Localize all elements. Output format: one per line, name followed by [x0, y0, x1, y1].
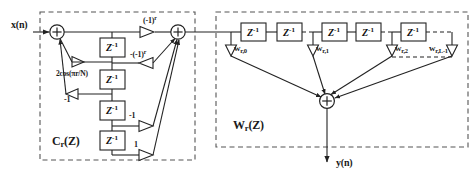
signal-flow-diagram: [0, 0, 476, 180]
coefficient-label-2cos: 2cos(πr/N): [56, 70, 88, 78]
weight-label-1: wr,1: [316, 44, 329, 54]
delay-label-right-1: Z-1: [247, 27, 259, 38]
output-label: y(n): [336, 158, 352, 168]
delay-symbol-exp: -1: [289, 26, 295, 34]
figure-canvas: x(n) y(n) Z-1 Z-1 Z-1 Z-1 Z-1 Z-1 Z-1 Z-…: [0, 0, 476, 180]
delay-label-left-1: Z-1: [106, 42, 118, 53]
delay-symbol-exp: -1: [112, 73, 118, 81]
adder-input-node: [50, 25, 64, 39]
delay-symbol-exp: -1: [368, 26, 374, 34]
delay-symbol-exp: -1: [253, 26, 259, 34]
right-block-label: Wr(Z): [233, 119, 264, 133]
coefficient-label-neg1-lower: -1: [129, 112, 135, 120]
delay-label-left-4: Z-1: [106, 135, 118, 146]
delay-symbol-exp: -1: [334, 26, 340, 34]
coefficient-label-top: (-1)r: [143, 16, 157, 25]
delay-symbol-exp: -1: [112, 104, 118, 112]
coefficient-label-neg1-upper: -1: [64, 96, 70, 104]
delay-symbol-exp: -1: [112, 41, 118, 49]
weight-triangle-L: [447, 45, 458, 56]
weight-label-0: wr,0: [234, 44, 247, 54]
weight-label-L: wr,L-1: [429, 44, 448, 54]
delay-label-right-3: Z-1: [328, 27, 340, 38]
delay-label-left-2: Z-1: [106, 74, 118, 85]
delay-label-left-3: Z-1: [106, 105, 118, 116]
coefficient-label-one: 1: [134, 141, 138, 149]
gain-triangle-top: [140, 27, 154, 38]
delay-label-right-5: Z-1: [407, 27, 419, 38]
adder-output-node: [320, 94, 335, 109]
input-label: x(n): [11, 20, 27, 30]
delay-symbol-exp: -1: [112, 134, 118, 142]
left-block-label: Cr(Z): [52, 135, 80, 149]
delay-label-right-2: Z-1: [283, 27, 295, 38]
delay-label-right-4: Z-1: [362, 27, 374, 38]
summation-converge-lines: [231, 56, 452, 98]
delay-symbol-exp: -1: [413, 26, 419, 34]
coefficient-label-neg-top: -(-1)r: [130, 50, 146, 59]
adder-mid-node: [171, 25, 185, 39]
weight-label-2: wr,2: [395, 44, 408, 54]
